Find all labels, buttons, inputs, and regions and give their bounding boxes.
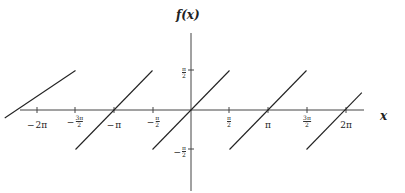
- chart-canvas: [0, 0, 405, 193]
- x-tick-label: π2: [227, 115, 231, 128]
- x-tick-label: 2π: [340, 119, 352, 130]
- x-axis-label: x: [380, 109, 387, 123]
- y-tick-label: π2: [182, 62, 186, 81]
- x-tick-label: −3π2: [67, 115, 83, 128]
- x-tick-label: −π: [107, 119, 121, 130]
- x-tick-label: −π2: [147, 115, 160, 128]
- x-tick-label: −2π: [27, 119, 47, 130]
- curve-segment: [5, 70, 76, 118]
- x-tick-label: 3π2: [303, 115, 311, 128]
- y-axis-label: f(x): [176, 8, 200, 22]
- y-tick-label: −π2: [174, 141, 187, 160]
- curve-segment: [306, 93, 361, 150]
- x-tick-label: π: [265, 119, 271, 130]
